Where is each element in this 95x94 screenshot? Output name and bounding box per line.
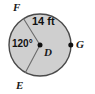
point-marker-D bbox=[38, 43, 43, 48]
point-label-F: F bbox=[13, 2, 20, 13]
point-label-E: E bbox=[16, 80, 23, 91]
radius-measure-label: 14 ft bbox=[32, 16, 55, 27]
point-marker-G bbox=[68, 43, 73, 48]
point-label-D: D bbox=[44, 47, 52, 58]
geometry-figure: F E G D 14 ft 120° bbox=[0, 0, 95, 94]
central-angle-measure-label: 120° bbox=[12, 39, 33, 49]
point-label-G: G bbox=[76, 39, 84, 50]
